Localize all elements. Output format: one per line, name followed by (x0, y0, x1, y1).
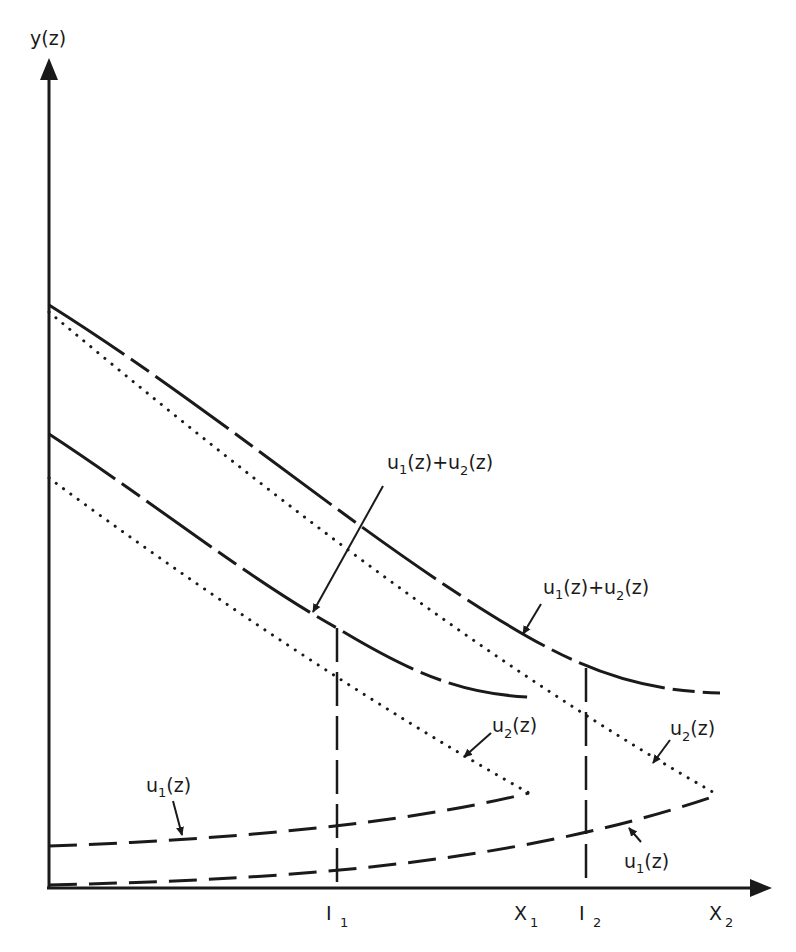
label-u2-case2: u2(z) (653, 717, 715, 763)
svg-text:X: X (514, 902, 527, 924)
svg-text:I: I (326, 902, 332, 924)
u2-curve-case1 (49, 478, 529, 793)
arrow-icon (523, 604, 541, 634)
svg-text:u2(z): u2(z) (670, 717, 715, 744)
tick-X2: X 2 (709, 902, 733, 930)
y-axis (40, 58, 58, 888)
label-sum-case1: u1(z)+u2(z) (313, 451, 493, 612)
u2-curve-case2 (49, 312, 718, 795)
u1-curve-case1 (49, 793, 529, 846)
label-u1-case2: u1(z) (624, 828, 669, 876)
label-u2-case1: u2(z) (464, 714, 537, 757)
y-axis-arrow-icon (40, 58, 58, 80)
svg-text:1: 1 (340, 915, 348, 930)
svg-text:u1(z)+u2(z): u1(z)+u2(z) (543, 576, 649, 603)
arrow-icon (173, 801, 182, 835)
arrow-icon (313, 486, 383, 612)
svg-text:2: 2 (593, 915, 601, 930)
svg-text:u2(z): u2(z) (492, 714, 537, 741)
svg-text:X: X (709, 902, 722, 924)
label-u1-case1: u1(z) (146, 774, 191, 835)
label-sum-case2: u1(z)+u2(z) (523, 576, 649, 634)
x-axis-arrow-icon (750, 879, 772, 897)
svg-text:u1(z): u1(z) (624, 850, 669, 876)
arrow-icon (629, 828, 641, 842)
sum-curve-case2 (49, 305, 720, 693)
y-axis-label: y(z) (30, 27, 66, 49)
tick-I1: I 1 (326, 902, 348, 930)
svg-text:u1(z): u1(z) (146, 774, 191, 800)
arrow-icon (653, 740, 670, 763)
svg-text:1: 1 (530, 915, 538, 930)
svg-text:u1(z)+u2(z): u1(z)+u2(z) (387, 451, 493, 478)
tick-X1: X 1 (514, 902, 538, 930)
diagram-canvas: y(z) I 1 X 1 I 2 X 2 u1(z)+u2(z) u1(z)+u… (0, 0, 796, 952)
svg-text:I: I (579, 902, 585, 924)
arrow-icon (464, 733, 491, 757)
tick-I2: I 2 (579, 902, 601, 930)
svg-text:2: 2 (725, 915, 733, 930)
